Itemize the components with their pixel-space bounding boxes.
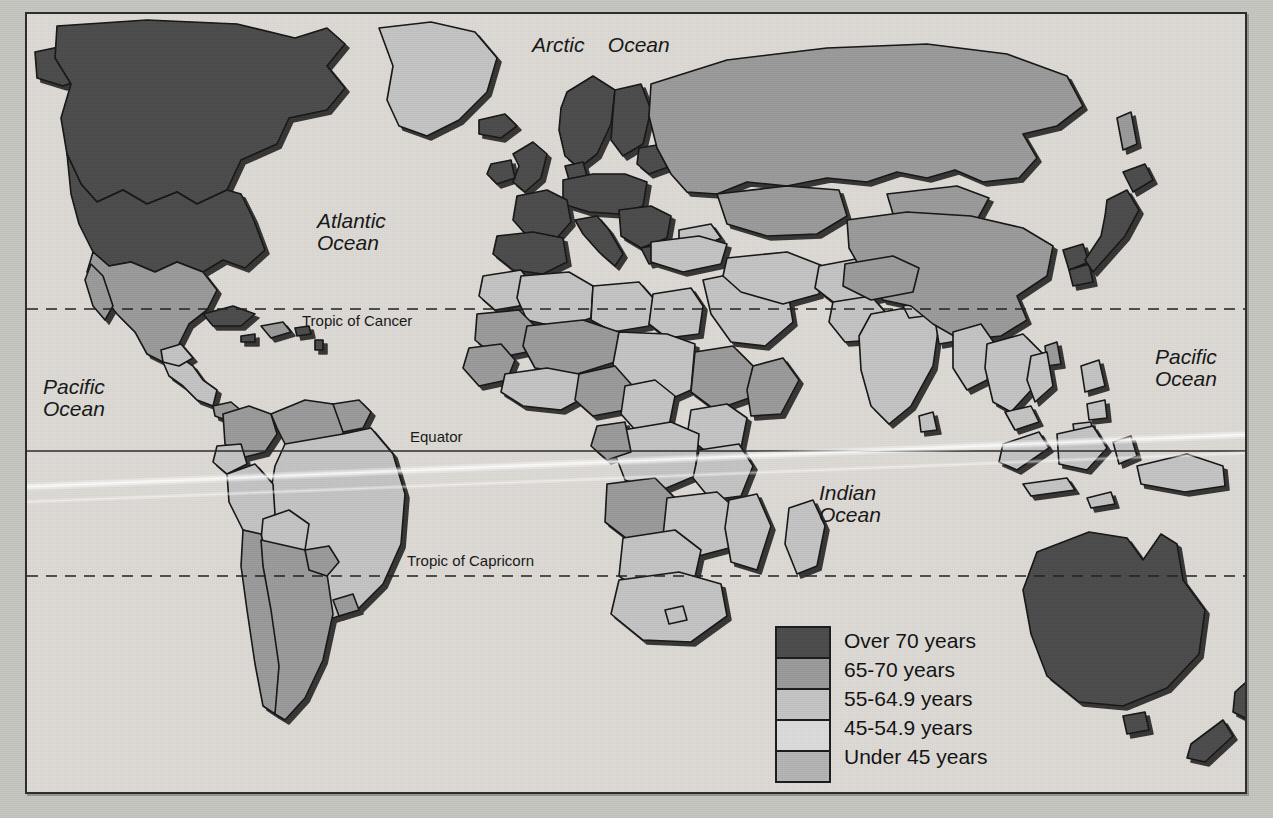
legend-swatch-65-70: [777, 659, 829, 690]
legend-label-45-54: 45-54.9 years: [844, 713, 988, 742]
label-pacific-ocean-east: Pacific Ocean: [1155, 346, 1217, 390]
region-libya: [591, 282, 653, 332]
label-atlantic-ocean: Atlantic Ocean: [317, 210, 386, 254]
region-sri-lanka: [919, 412, 937, 432]
region-lesser-antilles: [315, 340, 323, 350]
label-arctic-ocean: Arctic Ocean: [532, 34, 670, 56]
region-egypt: [649, 288, 703, 338]
legend-labels: Over 70 years 65-70 years 55-64.9 years …: [844, 626, 988, 783]
legend-swatch-under-45: [777, 752, 829, 781]
label-pacific-ocean-west: Pacific Ocean: [43, 376, 105, 420]
region-lesotho: [665, 606, 687, 624]
world-map[interactable]: [27, 14, 1245, 792]
map-frame: Arctic Ocean Atlantic Ocean Pacific Ocea…: [25, 12, 1247, 794]
label-indian-ocean: Indian Ocean: [819, 482, 881, 526]
label-equator: Equator: [410, 428, 463, 445]
region-tasmania: [1123, 712, 1149, 734]
region-mali-niger: [523, 320, 619, 374]
legend-swatch-55-64: [777, 690, 829, 721]
legend-label-55-64: 55-64.9 years: [844, 684, 988, 713]
label-tropic-of-cancer: Tropic of Cancer: [302, 312, 412, 329]
legend-label-under-45: Under 45 years: [844, 742, 988, 771]
label-tropic-of-capricorn: Tropic of Capricorn: [407, 552, 534, 569]
legend-label-65-70: 65-70 years: [844, 655, 988, 684]
legend-label-over-70: Over 70 years: [844, 626, 988, 655]
region-jamaica: [241, 334, 255, 342]
region-philippines-2: [1087, 400, 1107, 420]
region-russia: [649, 44, 1083, 194]
map-legend: Over 70 years 65-70 years 55-64.9 years …: [775, 626, 988, 783]
legend-swatch-over-70: [777, 628, 829, 659]
legend-swatch-45-54: [777, 721, 829, 752]
legend-swatches: [775, 626, 831, 783]
scanned-page: Copyright material of the publisher not …: [0, 0, 1273, 818]
